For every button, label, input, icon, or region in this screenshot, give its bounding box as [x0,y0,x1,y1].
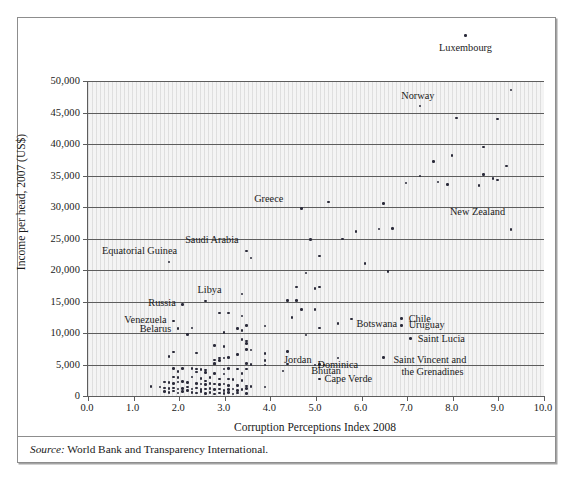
x-axis-tick-label: 5.0 [295,403,335,414]
point-label: Greece [254,193,283,204]
x-axis-tick-label: 3.0 [204,403,244,414]
plot-area [87,81,544,397]
y-axis-tick-label: 10,000 [51,328,80,339]
x-axis-tick-label: 4.0 [249,403,289,414]
x-axis-tick [362,396,363,401]
x-axis-tick [134,396,135,401]
x-axis-title: Corruption Perceptions Index 2008 [87,421,543,433]
point-label: Saint Lucia [418,333,465,344]
gridline-horizontal [88,144,544,145]
x-axis-tick-labels: 0.01.02.03.04.05.06.07.08.09.010.0 [87,403,543,417]
y-axis-tick-labels: 05,00010,00015,00020,00025,00030,00035,0… [30,81,80,396]
point-label: the Grenadines [401,366,463,377]
x-axis-tick-label: 0.0 [67,403,107,414]
source-label: Source: [30,443,65,455]
y-axis-tick-label: 30,000 [51,202,80,213]
y-axis-tick [83,207,88,208]
y-axis-tick-label: 25,000 [51,234,80,245]
point-label: Norway [358,90,478,101]
x-axis-tick-label: 8.0 [432,403,472,414]
y-axis-title: Income per head, 2007 (US$) [15,77,27,327]
point-label: Russia [148,297,175,308]
point-label: Libya [150,284,270,295]
point-label: Botswana [356,318,397,329]
data-point [464,34,467,37]
x-axis-tick [316,396,317,401]
x-axis-tick [407,396,408,401]
x-axis-tick [544,396,545,401]
x-axis-tick [498,396,499,401]
y-axis-tick-label: 35,000 [51,171,80,182]
point-label: Uruguay [409,319,445,330]
gridline-horizontal [88,113,544,114]
point-label: Saint Vincent and [393,354,466,365]
y-axis-tick [83,333,88,334]
point-label: Luxembourg [405,42,525,53]
gridline-horizontal [88,270,544,271]
x-axis-tick [88,396,89,401]
gridline-horizontal [88,176,544,177]
y-axis-tick-label: 50,000 [51,76,80,87]
x-axis-tick-label: 6.0 [341,403,381,414]
point-label: Cape Verde [325,373,373,384]
gridline-horizontal [88,81,544,82]
x-axis-tick [225,396,226,401]
y-axis-tick [83,239,88,240]
source-caption: Source: World Bank and Transparency Inte… [30,443,268,455]
y-axis-tick [83,270,88,271]
y-axis-tick-label: 40,000 [51,139,80,150]
point-label: Equatorial Guinea [102,245,177,256]
source-divider [18,436,555,437]
gridline-horizontal [88,239,544,240]
y-axis-tick-label: 15,000 [51,297,80,308]
x-axis-tick-label: 7.0 [386,403,426,414]
x-axis-tick-label: 10.0 [523,403,563,414]
y-axis-tick [83,302,88,303]
x-axis-tick-label: 2.0 [158,403,198,414]
y-axis-tick [83,365,88,366]
y-axis-tick-label: 45,000 [51,108,80,119]
x-axis-tick [179,396,180,401]
y-axis-tick [83,144,88,145]
y-axis-tick [83,113,88,114]
x-axis-tick [270,396,271,401]
point-label: Belarus [140,323,171,334]
y-axis-tick-label: 20,000 [51,265,80,276]
x-axis-tick [453,396,454,401]
scatter-chart: 05,00010,00015,00020,00025,00030,00035,0… [0,0,574,479]
y-axis-tick [83,176,88,177]
y-axis-tick [83,81,88,82]
point-label: New Zealand [450,206,505,217]
y-axis-tick-label: 5,000 [56,360,80,371]
x-axis-tick-label: 9.0 [477,403,517,414]
source-text: World Bank and Transparency Internationa… [67,443,268,455]
x-axis-tick-label: 1.0 [113,403,153,414]
point-label: Saudi Arabia [185,234,238,245]
y-axis-tick-label: 0 [75,391,80,402]
